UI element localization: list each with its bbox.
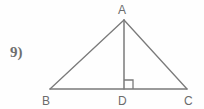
geometry-figure-canvas: 9) A B C D xyxy=(0,0,204,109)
segment-ab xyxy=(50,20,124,89)
vertex-label-d: D xyxy=(118,94,127,108)
triangle-diagram: A B C D xyxy=(0,0,204,109)
vertex-label-a: A xyxy=(118,3,126,17)
segment-ac xyxy=(124,20,187,89)
right-angle-marker-icon xyxy=(124,80,133,89)
vertex-label-c: C xyxy=(184,94,193,108)
vertex-label-b: B xyxy=(42,94,50,108)
